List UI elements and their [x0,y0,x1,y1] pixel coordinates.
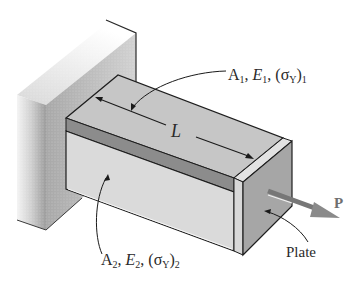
force-label: P [334,196,343,211]
plate-label: Plate [286,245,316,260]
composite-bar-diagram: A1, E1, (σY)1 A2, E2, (σY)2 L P Plate [0,0,364,283]
length-label: L [171,122,181,140]
material-2-label: A2, E2, (σY)2 [101,252,180,270]
material-1-label: A1, E1, (σY)1 [228,67,307,85]
diagram-drawing [0,0,364,283]
plate-front-edge [234,178,243,255]
